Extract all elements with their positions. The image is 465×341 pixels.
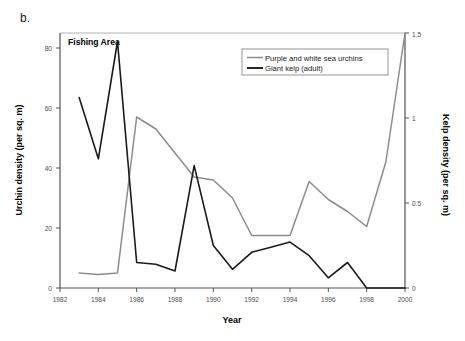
x-axis-tick-labels: 1982198419861988199019921994199619982000 <box>53 296 413 303</box>
y-tick-label-0: 0 <box>48 285 52 292</box>
x-tick-label-1998: 1998 <box>359 296 374 303</box>
x-axis-title: Year <box>222 315 242 325</box>
plot-title: Fishing Area <box>68 37 120 47</box>
legend-label-kelp: Giant kelp (adult) <box>265 64 323 73</box>
panel-label: b. <box>20 11 30 25</box>
y-axis-left-ticks <box>56 48 60 288</box>
y-tick-label-60: 60 <box>45 105 53 112</box>
x-tick-label-1992: 1992 <box>244 296 259 303</box>
x-axis-ticks <box>60 288 405 292</box>
y2-tick-label-1p5: 1.5 <box>412 31 421 38</box>
legend-item-urchins[interactable]: Purple and white sea urchins <box>247 54 363 63</box>
chart-canvas: 0 20 40 60 80 Urchin density (per sq. m)… <box>0 0 465 341</box>
y-tick-label-80: 80 <box>45 45 53 52</box>
y-axis-left: 0 20 40 60 80 Urchin density (per sq. m) <box>14 33 60 292</box>
x-tick-label-1984: 1984 <box>91 296 106 303</box>
y-axis-right-ticks <box>405 33 409 288</box>
x-tick-label-1994: 1994 <box>283 296 298 303</box>
y-tick-label-20: 20 <box>45 225 53 232</box>
x-tick-label-2000: 2000 <box>398 296 413 303</box>
x-tick-label-1988: 1988 <box>168 296 183 303</box>
y2-tick-label-0: 0 <box>412 285 416 292</box>
x-axis: 1982198419861988199019921994199619982000… <box>53 288 413 325</box>
y-axis-right-title: Kelp density (per sq. m) <box>441 114 451 216</box>
x-tick-label-1982: 1982 <box>53 296 68 303</box>
legend-label-urchins: Purple and white sea urchins <box>265 54 363 63</box>
y-axis-left-title: Urchin density (per sq. m) <box>14 104 24 215</box>
y2-tick-label-0p5: 0.5 <box>412 200 421 207</box>
y2-tick-label-1: 1 <box>412 115 416 122</box>
figure-panel-b: b. 0 20 40 60 80 Urchin density (per sq.… <box>0 0 465 341</box>
x-tick-label-1986: 1986 <box>129 296 144 303</box>
y-axis-right: 0 0.5 1 1.5 Kelp density (per sq. m) <box>405 31 451 292</box>
y-tick-label-40: 40 <box>45 165 53 172</box>
legend: Purple and white sea urchins Giant kelp … <box>242 49 388 75</box>
x-tick-label-1990: 1990 <box>206 296 221 303</box>
x-tick-label-1996: 1996 <box>321 296 336 303</box>
series-line-giant-kelp-adult <box>79 42 405 289</box>
